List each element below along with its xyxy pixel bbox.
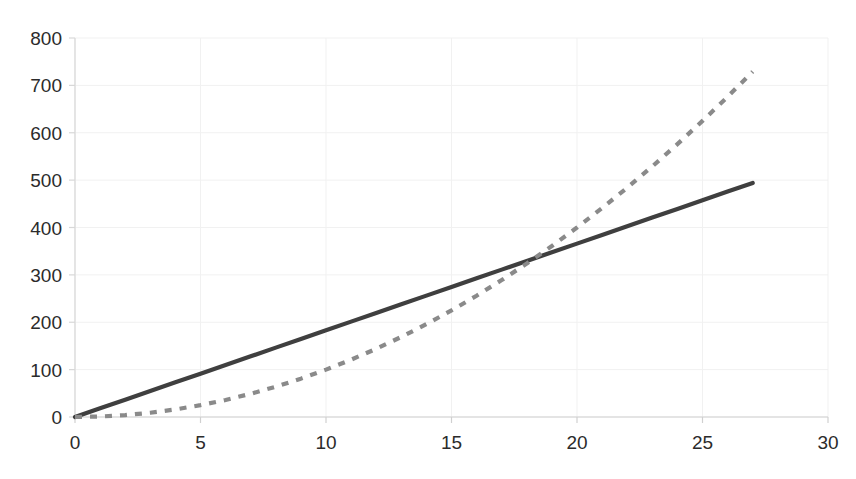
x-tick-label: 30: [817, 432, 838, 453]
x-tick-label: 0: [70, 432, 81, 453]
x-tick-label: 5: [195, 432, 206, 453]
x-tick-label: 15: [441, 432, 462, 453]
series-line-quadratic: [75, 72, 753, 417]
gridlines: [75, 38, 828, 417]
y-tick-label: 800: [30, 28, 62, 49]
x-axis-tick-labels: 051015202530: [70, 432, 839, 453]
y-tick-label: 600: [30, 123, 62, 144]
y-tick-label: 100: [30, 360, 62, 381]
y-tick-label: 700: [30, 75, 62, 96]
x-tick-label: 25: [692, 432, 713, 453]
data-series: [75, 72, 753, 417]
line-chart: 0100200300400500600700800 051015202530: [0, 0, 856, 479]
y-tick-label: 300: [30, 265, 62, 286]
y-tick-label: 500: [30, 170, 62, 191]
y-tick-label: 400: [30, 218, 62, 239]
series-line-linear: [75, 183, 753, 417]
y-axis-tick-labels: 0100200300400500600700800: [30, 28, 62, 428]
y-tick-label: 200: [30, 312, 62, 333]
x-tick-label: 10: [315, 432, 336, 453]
y-tick-label: 0: [51, 407, 62, 428]
chart-container: 0100200300400500600700800 051015202530: [0, 0, 856, 479]
x-tick-label: 20: [566, 432, 587, 453]
axis-lines: [69, 38, 828, 423]
